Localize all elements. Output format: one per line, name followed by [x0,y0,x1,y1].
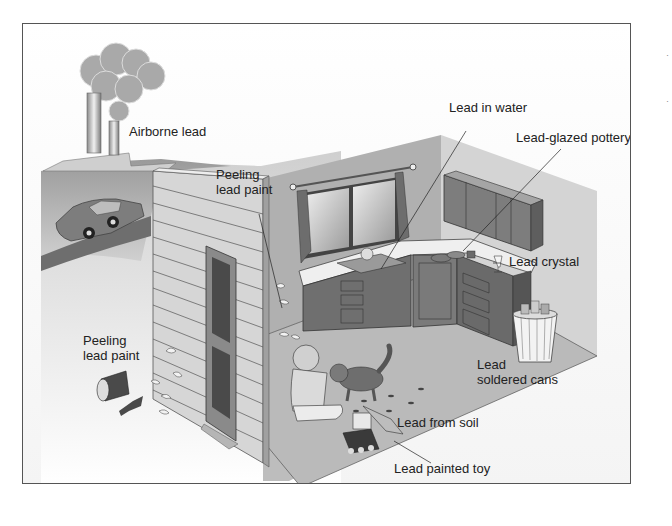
label-lead-soldered-cans: Lead soldered cans [477,357,558,387]
edge-mark-2: · [666,96,669,106]
edge-mark-1: · [666,50,669,60]
label-lead-glazed-pottery: Lead-glazed pottery [516,130,631,145]
label-lead-crystal: Lead crystal [509,254,579,269]
label-peeling-lead-paint-interior: Peeling lead paint [216,167,272,197]
label-lead-painted-toy: Lead painted toy [394,461,490,476]
lead-sources-illustration: Airborne lead Peeling lead paint Lead in… [22,23,631,484]
smokestack-2 [109,121,119,155]
kettle [361,248,373,260]
label-line-1: Peeling [83,333,139,348]
label-lead-from-soil: Lead from soil [397,415,479,430]
label-airborne-lead: Airborne lead [129,124,206,139]
smokestack-1 [87,93,101,153]
label-line-2: lead paint [83,348,139,363]
label-line-1: Peeling [216,167,272,182]
door [201,246,238,449]
label-line-2: soldered cans [477,372,558,387]
label-peeling-lead-paint-exterior: Peeling lead paint [83,333,139,363]
label-lead-in-water: Lead in water [449,100,527,115]
label-line-1: Lead [477,357,558,372]
trash-can-with-cans [513,301,557,362]
pottery-mug [467,251,475,258]
label-line-2: lead paint [216,182,272,197]
